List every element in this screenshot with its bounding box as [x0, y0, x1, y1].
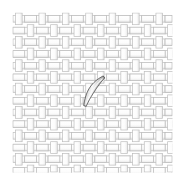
weave-strip-vertical: [62, 107, 69, 119]
weave-strip-horizontal-over: [165, 62, 172, 69]
weave-strip-vertical: [51, 95, 58, 107]
weave-strip-vertical: [51, 142, 58, 154]
weave-strip-vertical: [27, 48, 34, 60]
weave-strip-vertical: [39, 83, 46, 95]
weave-strip-horizontal-over: [130, 51, 142, 58]
weave-strip-horizontal-over: [142, 62, 154, 69]
weave-strip-vertical: [97, 118, 104, 130]
weave-strip-vertical: [16, 83, 23, 95]
weave-strip-horizontal-over: [48, 16, 60, 23]
weave-strip-vertical: [97, 25, 104, 37]
weave-strip-horizontal-over: [13, 97, 25, 104]
weave-strip-horizontal-over: [142, 109, 154, 116]
weave-strip-horizontal-over: [107, 97, 119, 104]
weave-strip-vertical: [27, 142, 34, 154]
weave-strip-vertical: [121, 95, 128, 107]
weave-strip-horizontal-over: [13, 74, 25, 81]
weave-strip-vertical: [16, 130, 23, 142]
weave-strip-horizontal-over: [48, 133, 60, 140]
weave-strip-vertical: [144, 72, 151, 84]
weave-strip-horizontal-over: [25, 16, 37, 23]
weave-strip-horizontal-over: [13, 144, 25, 151]
weave-strip-vertical: [133, 36, 140, 48]
weave-strip-horizontal-over: [130, 144, 142, 151]
weave-strip-horizontal-over: [25, 156, 37, 163]
weave-strip-vertical: [51, 72, 58, 84]
weave-strip-vertical: [51, 165, 58, 172]
weave-strip-horizontal-over: [36, 121, 48, 128]
weave-strip-horizontal-over: [165, 16, 172, 23]
weave-strip-vertical: [51, 25, 58, 37]
weave-strip-horizontal-over: [130, 97, 142, 104]
weave-strip-horizontal-over: [83, 74, 95, 81]
weave-strip-vertical: [27, 165, 34, 172]
weave-strip-horizontal-over: [118, 109, 130, 116]
weave-strip-vertical: [156, 60, 163, 72]
weave-strip-vertical: [144, 95, 151, 107]
weave-strip-horizontal-over: [83, 51, 95, 58]
weave-strip-horizontal-over: [153, 121, 165, 128]
weave-strip-horizontal-over: [142, 16, 154, 23]
weave-strip-vertical: [133, 60, 140, 72]
weave-strip-vertical: [16, 36, 23, 48]
weave-strip-horizontal-over: [95, 62, 107, 69]
weave-strip-vertical: [86, 107, 93, 119]
weave-strip-horizontal-over: [95, 16, 107, 23]
weave-strip-horizontal-over: [107, 74, 119, 81]
weave-strip-horizontal-over: [72, 86, 84, 93]
weave-strip-vertical: [156, 130, 163, 142]
weave-strip-vertical: [156, 107, 163, 119]
weave-strip-vertical: [121, 165, 128, 172]
weave-strip-horizontal-over: [72, 133, 84, 140]
weave-strip-horizontal-over: [25, 133, 37, 140]
weave-strip-horizontal-over: [60, 144, 72, 151]
weave-strip-horizontal-over: [153, 144, 165, 151]
weave-strip-vertical: [109, 36, 116, 48]
weave-strip-vertical: [144, 48, 151, 60]
weave-strip-horizontal-over: [72, 62, 84, 69]
weave-strip-vertical: [97, 95, 104, 107]
weave-strip-vertical: [121, 142, 128, 154]
weave-strip-vertical: [97, 48, 104, 60]
weave-strip-horizontal-over: [118, 156, 130, 163]
weave-strip-vertical: [156, 36, 163, 48]
weave-strip-vertical: [74, 25, 81, 37]
weave-strip-horizontal-over: [130, 27, 142, 34]
weave-strip-vertical: [51, 48, 58, 60]
weave-strip-vertical: [62, 83, 69, 95]
weave-strip-horizontal-over: [142, 156, 154, 163]
weave-strip-horizontal-over: [95, 156, 107, 163]
weave-strip-horizontal-over: [72, 156, 84, 163]
weave-strip-vertical: [39, 36, 46, 48]
weave-strip-horizontal-over: [165, 109, 172, 116]
weave-strip-horizontal-over: [60, 74, 72, 81]
weave-strip-vertical: [27, 118, 34, 130]
weave-strip-horizontal-over: [153, 97, 165, 104]
weave-strip-vertical: [97, 165, 104, 172]
weave-strip-horizontal-over: [107, 27, 119, 34]
weave-strip-horizontal-over: [142, 133, 154, 140]
weave-strip-vertical: [86, 13, 93, 25]
weave-strip-horizontal-over: [36, 144, 48, 151]
weave-strip-vertical: [16, 60, 23, 72]
weave-strip-vertical: [133, 107, 140, 119]
weave-strip-horizontal-over: [48, 109, 60, 116]
weave-strip-vertical: [16, 153, 23, 165]
weave-strip-vertical: [144, 25, 151, 37]
weave-strip-vertical: [144, 165, 151, 172]
weave-strip-horizontal-over: [25, 109, 37, 116]
weave-strip-vertical: [74, 72, 81, 84]
weave-strip-horizontal-over: [107, 144, 119, 151]
weave-strip-vertical: [133, 153, 140, 165]
weave-strip-horizontal-over: [107, 51, 119, 58]
weave-strip-vertical: [39, 130, 46, 142]
weave-strip-vertical: [74, 165, 81, 172]
weave-strip-horizontal-over: [72, 109, 84, 116]
weave-strip-vertical: [121, 25, 128, 37]
weave-strip-horizontal-over: [153, 74, 165, 81]
weave-strip-vertical: [39, 60, 46, 72]
weave-strip-horizontal-over: [142, 39, 154, 46]
weave-strip-horizontal-over: [48, 156, 60, 163]
weave-strip-vertical: [39, 153, 46, 165]
weave-strip-horizontal-over: [36, 27, 48, 34]
